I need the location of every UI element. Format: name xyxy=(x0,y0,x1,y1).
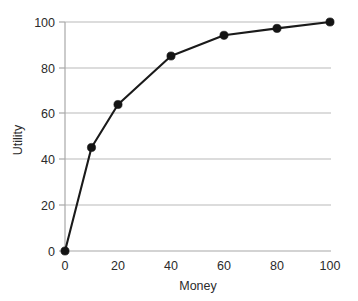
utility-vs-money-chart: 100 80 60 40 20 0 0 20 40 60 80 100 Mone… xyxy=(0,0,358,301)
y-tick-label-40: 40 xyxy=(41,153,55,167)
y-tick-label-20: 20 xyxy=(41,199,55,213)
x-tick-label-100: 100 xyxy=(320,259,341,273)
y-tick-label-80: 80 xyxy=(41,62,55,76)
x-tick-label-60: 60 xyxy=(217,259,231,273)
chart-canvas: 100 80 60 40 20 0 0 20 40 60 80 100 Mone… xyxy=(0,0,358,301)
y-tick-label-0: 0 xyxy=(48,245,55,259)
data-point-0 xyxy=(61,247,69,255)
data-point-40 xyxy=(167,52,175,60)
x-tick-label-0: 0 xyxy=(62,259,69,273)
data-point-10 xyxy=(87,143,95,151)
x-tick-label-40: 40 xyxy=(164,259,178,273)
y-tick-label-60: 60 xyxy=(41,107,55,121)
y-axis-title: Utility xyxy=(11,124,25,155)
x-axis-title: Money xyxy=(179,279,217,293)
data-point-20 xyxy=(114,100,122,108)
data-point-60 xyxy=(220,31,228,39)
x-tick-label-20: 20 xyxy=(111,259,125,273)
data-point-80 xyxy=(273,24,281,32)
y-tick-label-100: 100 xyxy=(34,16,55,30)
data-point-100 xyxy=(326,18,334,26)
x-tick-label-80: 80 xyxy=(270,259,284,273)
